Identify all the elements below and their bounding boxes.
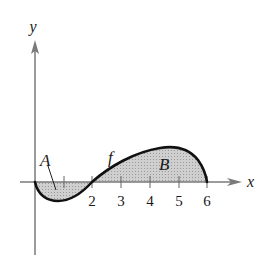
x-tick-label-2: 2: [88, 193, 96, 209]
region-label-b: B: [159, 155, 170, 174]
x-tick-label-4: 4: [146, 193, 154, 209]
x-axis-label: x: [246, 173, 254, 190]
curve-label-f: f: [108, 148, 115, 167]
x-tick-label-5: 5: [175, 193, 183, 209]
y-axis-label: y: [27, 18, 37, 36]
region-label-a: A: [39, 151, 51, 170]
y-axis: [31, 40, 39, 255]
x-tick-label-3: 3: [117, 193, 125, 209]
graph-figure: 2 3 4 5 6 y x f A B: [0, 0, 268, 263]
x-tick-label-6: 6: [203, 193, 211, 209]
